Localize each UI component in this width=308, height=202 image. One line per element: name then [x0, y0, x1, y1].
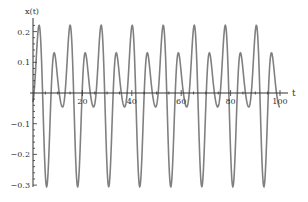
- y-axis-label: x(t): [25, 7, 39, 16]
- x-tick-label: 60: [176, 97, 186, 106]
- x-tick-label: 20: [77, 97, 87, 106]
- y-tick-label: −0.3: [11, 181, 30, 190]
- signal-curve: [33, 25, 280, 186]
- y-tick-label: −0.2: [11, 150, 30, 159]
- x-tick-label: 100: [272, 97, 287, 106]
- tick-labels: 204060801000.20.1−0.1−0.2−0.3: [11, 28, 288, 191]
- x-axis-label: t: [292, 88, 296, 98]
- y-tick-label: 0.1: [17, 58, 30, 67]
- y-tick-label: 0.2: [17, 28, 30, 37]
- signal-line: [33, 25, 280, 186]
- y-tick-label: −0.1: [11, 120, 30, 129]
- x-tick-label: 40: [127, 97, 137, 106]
- x-tick-label: 80: [226, 97, 236, 106]
- line-chart: 204060801000.20.1−0.1−0.2−0.3 x(t) t: [0, 0, 308, 202]
